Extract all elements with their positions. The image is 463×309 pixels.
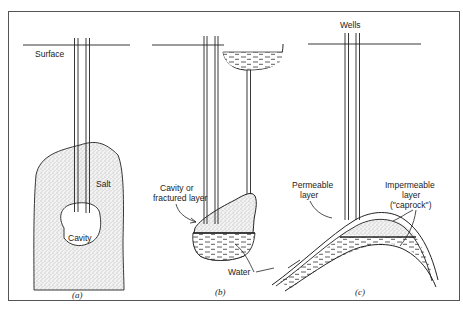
water-zone-c (280, 237, 433, 289)
caption-c: (c) (355, 287, 365, 297)
tank-water (223, 52, 283, 69)
label-cavity-or: Cavity or (160, 183, 194, 193)
label-water: Water (228, 267, 251, 277)
label-caprock: ("caprock") (390, 200, 432, 210)
label-impermeable-layer: layer (402, 190, 421, 200)
panel-c: Wells Permeable layer Impermeable layer … (272, 20, 438, 297)
label-permeable-layer: layer (300, 190, 319, 200)
wells-c (345, 33, 360, 220)
label-permeable: Permeable (292, 180, 333, 190)
caption-b: (b) (215, 287, 226, 297)
label-wells: Wells (340, 20, 361, 30)
diagram-figure: Surface Salt Cavity (a) Cavity or fractu… (0, 0, 463, 309)
caption-a: (a) (72, 290, 83, 300)
label-salt: Salt (96, 179, 111, 189)
label-surface: Surface (35, 49, 65, 59)
label-cavity: Cavity (68, 233, 92, 243)
label-impermeable: Impermeable (385, 180, 435, 190)
arrow-permeable (310, 201, 332, 218)
label-fractured-layer: fractured layer (153, 193, 207, 203)
panel-b: Cavity or fractured layer Water (b) (152, 36, 283, 297)
panel-a: Surface Salt Cavity (a) (23, 38, 130, 300)
